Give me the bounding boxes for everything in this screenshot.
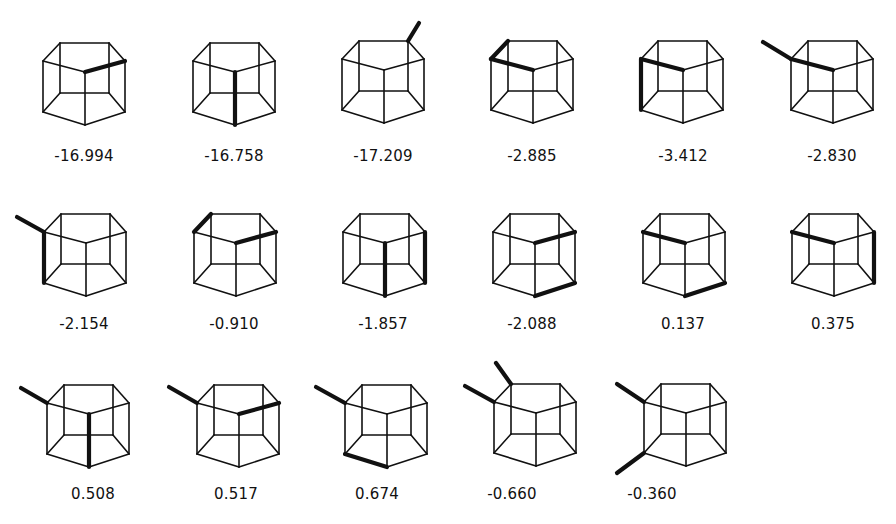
bond <box>47 435 64 454</box>
substituent-bond <box>17 217 44 232</box>
figure-canvas: -16.994-16.758-17.209-2.885-3.412-2.830-… <box>0 0 896 524</box>
substituent-bond <box>408 23 419 41</box>
bond <box>644 453 686 466</box>
molecule-2-4 <box>493 214 575 296</box>
highlighted-bond <box>641 59 683 70</box>
bond <box>342 41 359 59</box>
bond <box>194 232 236 243</box>
bond <box>263 435 279 454</box>
energy-label: -1.857 <box>358 315 408 333</box>
substituent-bond <box>496 363 511 384</box>
energy-label: 0.137 <box>661 315 705 333</box>
bond <box>193 43 210 61</box>
molecule-3-2 <box>169 385 279 467</box>
highlighted-bond <box>491 59 533 70</box>
highlighted-bond <box>643 232 685 243</box>
bond <box>533 110 573 123</box>
bond <box>236 283 276 296</box>
bond <box>791 110 833 123</box>
bond <box>385 232 425 243</box>
bond <box>536 402 576 413</box>
bond <box>260 264 276 283</box>
highlighted-bond <box>792 232 834 243</box>
molecule-1-4 <box>491 41 573 123</box>
energy-label: 0.517 <box>214 485 258 503</box>
bond <box>792 283 834 296</box>
bond <box>833 110 873 123</box>
bond <box>235 112 275 125</box>
bond <box>536 453 576 466</box>
bond <box>44 232 86 243</box>
bond <box>193 61 235 72</box>
energy-label: -3.412 <box>658 147 708 165</box>
bond <box>686 453 726 466</box>
bond <box>710 434 726 453</box>
bond <box>193 93 210 112</box>
highlighted-bond <box>239 403 279 414</box>
bond <box>197 385 214 403</box>
bond <box>197 403 239 414</box>
bond <box>834 232 874 243</box>
energy-label: -16.758 <box>204 147 263 165</box>
bond <box>197 454 239 467</box>
molecule-2-5 <box>643 214 725 296</box>
substituent-bond <box>763 42 791 59</box>
energy-label: 0.674 <box>355 485 399 503</box>
molecule-3-3 <box>316 385 427 467</box>
bond <box>644 434 661 453</box>
molecule-1-1 <box>43 43 125 125</box>
bond <box>685 232 725 243</box>
bond <box>47 385 64 403</box>
bond <box>345 385 362 403</box>
bond <box>113 385 129 403</box>
molecule-1-5 <box>641 41 723 123</box>
substituent-bond <box>169 387 197 403</box>
bond <box>197 435 214 454</box>
bond <box>47 403 89 414</box>
bond <box>384 110 424 123</box>
bond <box>44 283 86 296</box>
bond <box>643 283 685 296</box>
highlighted-bond <box>345 454 387 467</box>
bond <box>707 91 723 110</box>
highlighted-bond <box>535 232 575 243</box>
molecule-2-1 <box>17 214 126 296</box>
bond <box>43 112 85 125</box>
highlighted-bond <box>491 41 508 59</box>
energy-label: -0.660 <box>487 485 537 503</box>
bond <box>409 214 425 232</box>
highlighted-bond <box>194 214 211 232</box>
bond <box>109 93 125 112</box>
bond <box>643 214 660 232</box>
bond <box>89 403 129 414</box>
bond <box>710 384 726 402</box>
bond <box>44 214 61 232</box>
bond <box>644 384 661 402</box>
bond <box>259 43 275 61</box>
bond <box>559 264 575 283</box>
bond <box>709 264 725 283</box>
bond <box>342 110 384 123</box>
bond <box>263 385 279 403</box>
highlighted-bond <box>685 283 725 296</box>
bond <box>239 454 279 467</box>
bond <box>109 43 125 61</box>
bond <box>408 91 424 110</box>
bond <box>491 110 533 123</box>
highlighted-bond <box>535 283 575 296</box>
energy-label: -2.154 <box>59 315 109 333</box>
molecule-2-2 <box>194 214 276 296</box>
bond <box>260 214 276 232</box>
substituent-bond <box>617 384 644 402</box>
bond <box>194 264 211 283</box>
energy-label: -2.885 <box>507 147 557 165</box>
bond <box>411 385 427 403</box>
bond <box>833 59 873 70</box>
bond <box>641 91 658 110</box>
bond <box>110 214 126 232</box>
bond <box>408 41 424 59</box>
bond <box>791 91 808 110</box>
bond <box>411 435 427 454</box>
molecule-3-1 <box>21 385 129 467</box>
highlighted-bond <box>236 232 276 243</box>
